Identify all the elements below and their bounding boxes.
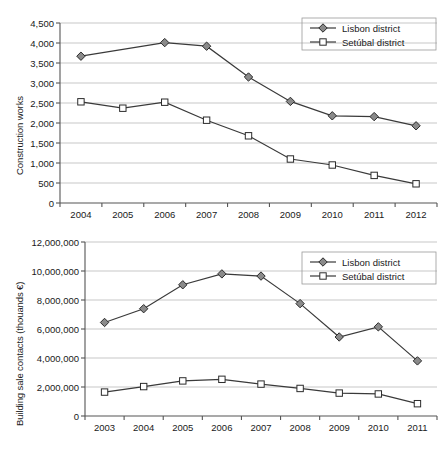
legend-label-setubal: Setúbal district	[342, 271, 405, 282]
series-line-lisbon	[81, 43, 416, 126]
data-point-marker-diamond	[244, 73, 252, 81]
data-point-marker-square	[336, 390, 342, 396]
data-point-marker-square	[101, 389, 107, 395]
data-point-marker-diamond	[161, 38, 169, 46]
data-point-marker-square	[245, 133, 251, 139]
data-point-marker-diamond	[286, 97, 294, 105]
chart-building-sale-contacts: Building sale contacts (thouands €) 02,0…	[0, 230, 445, 455]
data-point-marker-diamond	[100, 318, 108, 326]
data-point-marker-diamond	[179, 281, 187, 289]
data-point-marker-square	[329, 162, 335, 168]
data-point-marker-square	[140, 383, 146, 389]
data-point-marker-square	[258, 381, 264, 387]
legend-label-lisbon: Lisbon district	[342, 257, 400, 268]
data-point-marker-square	[413, 181, 419, 187]
plot-area-top: Lisbon districtSetúbal district	[0, 0, 445, 230]
data-point-marker-diamond	[139, 305, 147, 313]
data-point-marker-square	[414, 400, 420, 406]
data-point-marker-square	[287, 156, 293, 162]
data-point-marker-square	[120, 105, 126, 111]
data-point-marker-square	[371, 172, 377, 178]
chart-construction-works: Construction works 05001,0001,5002,0002,…	[0, 0, 445, 230]
data-point-marker-diamond	[370, 112, 378, 120]
data-point-marker-square	[297, 385, 303, 391]
legend-marker-square	[320, 273, 326, 279]
data-point-marker-square	[162, 99, 168, 105]
data-point-marker-diamond	[77, 52, 85, 60]
plot-area-bottom: Lisbon districtSetúbal district	[0, 230, 445, 455]
data-point-marker-square	[78, 99, 84, 105]
data-point-marker-square	[375, 391, 381, 397]
series-line-lisbon	[105, 274, 418, 361]
legend-label-setubal: Setúbal district	[342, 37, 405, 48]
data-point-marker-diamond	[328, 112, 336, 120]
legend-label-lisbon: Lisbon district	[342, 23, 400, 34]
figure-two-line-charts: Construction works 05001,0001,5002,0002,…	[0, 0, 445, 455]
legend-marker-diamond	[319, 258, 327, 266]
legend-marker-diamond	[319, 24, 327, 32]
data-point-marker-square	[180, 378, 186, 384]
data-point-marker-diamond	[257, 272, 265, 280]
legend: Lisbon districtSetúbal district	[302, 252, 436, 284]
legend-marker-square	[320, 39, 326, 45]
data-point-marker-square	[203, 117, 209, 123]
data-point-marker-square	[219, 376, 225, 382]
